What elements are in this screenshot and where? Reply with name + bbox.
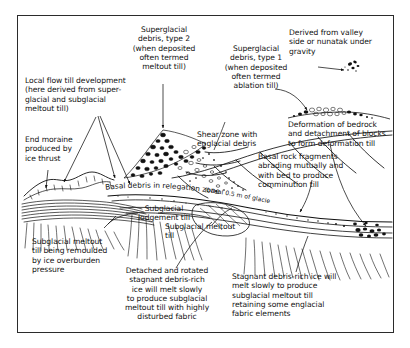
annotation-subglacial-lodgement-till: Subglacial lodgement till [133,204,195,223]
curved-label-basal-debris: Basal debris in relegation zone [105,181,221,196]
leader-end-moraine [46,170,48,188]
annotation-derived-from-valley-side: Derived from valley side or nunatak unde… [289,28,397,56]
leader-superglacial-type1 [275,89,307,110]
leader-stagnant-debris [296,236,308,272]
leader-meltout-remoulded [104,216,116,228]
figure-root: Basal debris in relegation zone (basal 0… [0,0,410,348]
annotation-detached-and-rotated: Detached and rotated stagnant debris-ric… [111,266,223,322]
leader-valley-side [318,67,344,70]
annotation-superglacial-debris-type2: Superglacial debris, type 2 (when deposi… [108,25,220,71]
annotation-deformation-of-bedrock: Deformation of bedrock and detachment of… [288,120,398,148]
superglacial-debris-type1-patch [288,107,390,119]
valley-side-debris-clump [344,60,359,71]
annotation-subglacial-meltout-remoulded: Subglacial meltout till being remoulded … [32,237,122,274]
annotation-subglacial-meltout-till: Subglacial meltout till [165,222,245,241]
annotation-superglacial-debris-type1: Superglacial debris, type 1 (when deposi… [214,44,298,90]
annotation-shear-zone: Shear zone with englacial debris [197,130,281,149]
annotation-basal-rock-fragments: Basal rock fragments abrading mutually a… [258,152,358,189]
annotation-end-moraine: End moraine produced by ice thrust [25,135,105,163]
annotation-local-flow-till: Local flow till development (here derive… [25,76,147,113]
annotation-stagnant-debris-rich-ice: Stagnant debris-rich ice will melt slowl… [232,272,352,318]
